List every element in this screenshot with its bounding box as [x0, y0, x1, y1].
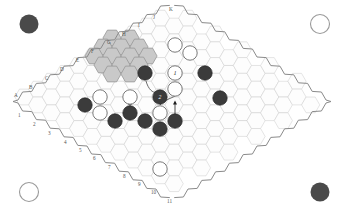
- edge-label-letter: K: [169, 6, 173, 12]
- edge-label-letter: H: [122, 31, 126, 37]
- bottom-right-corner-marker: [311, 183, 330, 202]
- bottom-left-corner-marker: [20, 183, 39, 202]
- edge-label-number: 5: [79, 147, 82, 153]
- edge-label-number: 7: [108, 164, 111, 170]
- light-stone-piece[interactable]: [168, 82, 182, 96]
- dark-stone-piece[interactable]: [138, 66, 152, 80]
- hex-board-diagram: ABCDEFGHIJK1234567891011 12: [0, 0, 348, 216]
- edge-label-number: 1: [18, 112, 21, 118]
- light-stone-piece[interactable]: [183, 46, 197, 60]
- light-stone-piece[interactable]: [168, 38, 182, 52]
- edge-label-number: 3: [48, 130, 51, 136]
- edge-label-number: 11: [167, 198, 172, 204]
- top-right-corner-marker: [311, 15, 330, 34]
- light-stone-piece[interactable]: [93, 90, 107, 104]
- edge-label-number: 9: [138, 181, 141, 187]
- edge-label-letter: G: [107, 39, 111, 45]
- board-canvas: ABCDEFGHIJK1234567891011 12: [0, 0, 348, 216]
- edge-label-letter: C: [45, 75, 49, 81]
- edge-label-number: 2: [33, 121, 36, 127]
- edge-label-letter: E: [76, 57, 79, 63]
- board-vertex-right: [326, 100, 331, 103]
- dark-stone-piece[interactable]: [138, 114, 152, 128]
- hex-grid-layer: [15, 10, 320, 191]
- dark-stone-piece[interactable]: [153, 122, 167, 136]
- edge-label-number: 4: [64, 139, 67, 145]
- edge-label-letter: B: [29, 84, 33, 90]
- top-left-corner-marker: [20, 15, 39, 34]
- edge-label-number: 6: [93, 155, 96, 161]
- edge-label-letter: J: [153, 14, 155, 20]
- dark-stone-piece[interactable]: [78, 98, 92, 112]
- light-stone-piece[interactable]: [153, 162, 167, 176]
- piece-number-label: 2: [159, 94, 162, 100]
- edge-label-letter: F: [91, 48, 94, 54]
- edge-label-number: 8: [123, 173, 126, 179]
- edge-label-letter: A: [14, 92, 18, 98]
- dark-stone-piece[interactable]: [108, 114, 122, 128]
- dark-stone-piece[interactable]: [168, 114, 182, 128]
- light-stone-piece[interactable]: [93, 106, 107, 120]
- light-stone-piece[interactable]: [153, 106, 167, 120]
- light-stone-piece[interactable]: [123, 90, 137, 104]
- dark-stone-piece[interactable]: [123, 106, 137, 120]
- edge-label-number: 10: [151, 189, 157, 195]
- edge-label-letter: D: [60, 66, 64, 72]
- edge-label-letter: I: [138, 22, 140, 28]
- piece-number-label: 1: [173, 69, 176, 76]
- dark-stone-piece[interactable]: [213, 91, 227, 105]
- dark-stone-piece[interactable]: [198, 66, 212, 80]
